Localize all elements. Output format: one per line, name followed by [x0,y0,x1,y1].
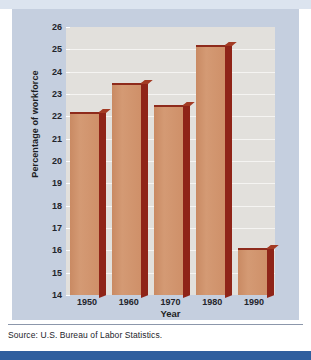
y-axis-tick-label: 14 [36,291,62,300]
bar-1950 [70,112,99,295]
y-axis-tick-label: 15 [36,269,62,278]
bar-side-face [99,109,106,298]
x-axis-tick-label: 1960 [108,297,150,308]
y-axis-tick-mark [66,206,70,207]
bar-top-face [98,109,111,113]
bar-front-face [238,248,267,295]
x-axis-tick-label: 1950 [66,297,108,308]
bar-top-face [266,245,279,249]
x-axis-title: Year [66,308,275,319]
y-axis-tick-label: 20 [36,157,62,166]
bar-1990 [238,248,267,295]
chart-panel: Percentage of workforce 2625242322212019… [12,9,299,320]
y-axis-tick-mark [66,228,70,229]
bar-1980 [196,45,225,295]
bar-front-face [196,45,225,295]
bar-1960 [112,83,141,295]
y-axis-tick-mark [66,27,70,28]
source-divider [8,324,303,325]
x-axis-tick-label: 1980 [191,297,233,308]
y-axis-tick-label: 25 [36,45,62,54]
bar-side-face [225,42,232,298]
figure-container: Percentage of workforce 2625242322212019… [0,0,311,360]
y-axis-tick-mark [66,72,70,73]
x-axis-tick-label: 1990 [233,297,275,308]
gridline [66,49,275,50]
y-axis-tick-label: 21 [36,135,62,144]
y-axis-tick-mark [66,161,70,162]
bar-top-face [224,42,237,46]
y-axis-tick-mark [66,183,70,184]
y-axis-tick-mark [66,273,70,274]
top-decorative-band [0,0,311,9]
y-axis-tick-label: 26 [36,23,62,32]
y-axis-tick-label: 24 [36,68,62,77]
bar-side-face [141,80,148,298]
y-axis-tick-label: 17 [36,224,62,233]
bar-1970 [154,105,183,295]
bottom-decorative-band [0,351,311,360]
gridline [66,94,275,95]
gridline [66,72,275,73]
bar-top-face [140,80,153,84]
bar-front-face [70,112,99,295]
y-axis-tick-mark [66,295,70,296]
y-axis-tick-label: 23 [36,90,62,99]
plot-area [66,27,275,295]
bar-side-face [183,102,190,298]
y-axis-tick-label: 16 [36,246,62,255]
y-axis-tick-mark [66,250,70,251]
y-axis-tick-mark [66,139,70,140]
y-axis-tick-mark [66,116,70,117]
y-axis-tick-label: 18 [36,202,62,211]
y-axis-tick-label: 22 [36,112,62,121]
bar-top-face [182,102,195,106]
x-axis-tick-label: 1970 [150,297,192,308]
source-note: Source: U.S. Bureau of Labor Statistics. [8,330,162,340]
bar-side-face [267,245,274,298]
y-axis-tick-labels: 26252423222120191817161514 [32,27,62,295]
bar-front-face [112,83,141,295]
bar-front-face [154,105,183,295]
y-axis-tick-label: 19 [36,179,62,188]
y-axis-tick-mark [66,49,70,50]
y-axis-tick-mark [66,94,70,95]
